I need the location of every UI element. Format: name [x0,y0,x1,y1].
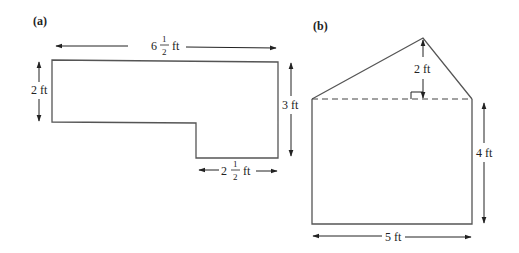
dim-unit: ft [243,164,251,178]
dim-denominator: 2 [233,172,238,182]
dim-label: 4 ft [476,146,493,160]
dim-unit: ft [172,39,180,53]
dim-bottom-width: 2 1 2 ft [199,159,277,182]
figure-b-label: (b) [313,19,328,33]
dim-label: 2 ft [31,83,48,97]
rectangle [312,99,472,224]
dim-denominator: 2 [162,47,167,57]
figure-b: (b) 2 ft 4 ft 5 ft [312,19,493,244]
figure-a: (a) 6 1 2 ft 2 ft 3 ft 2 [31,14,299,182]
dim-triangle-height: 2 ft [414,40,431,98]
dim-label: 3 ft [282,98,299,112]
right-angle-icon [411,92,423,99]
dim-label: 2 ft [414,62,431,76]
triangle-roof [312,38,472,99]
dim-whole: 2 [221,164,227,178]
dim-rect-width: 5 ft [313,230,471,244]
dim-numerator: 1 [233,159,238,169]
figure-a-label: (a) [33,14,47,28]
dim-numerator: 1 [162,34,167,44]
dim-right-height: 3 ft [282,63,299,156]
dim-top-width: 6 1 2 ft [56,34,276,57]
dim-label: 5 ft [385,230,402,244]
dim-left-height: 2 ft [31,62,48,121]
dim-whole: 6 [151,39,157,53]
dim-rect-height: 4 ft [476,103,493,223]
figure-canvas: (a) 6 1 2 ft 2 ft 3 ft 2 [0,0,519,253]
arrow-right-icon [186,47,276,48]
l-shape [52,60,278,158]
